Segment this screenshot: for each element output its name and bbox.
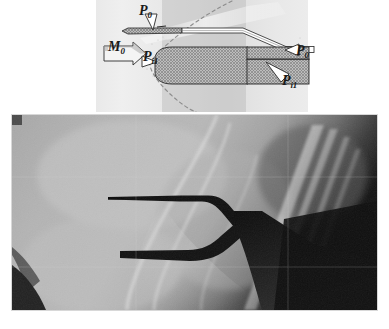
schlieren-photograph	[12, 115, 377, 310]
schematic-vector-layer	[0, 0, 389, 112]
label-p0-top-var: P	[139, 3, 148, 18]
schlieren-vector-layer	[12, 115, 377, 310]
label-m0-var: M	[108, 39, 120, 54]
figure-caption	[6, 316, 306, 327]
label-p0-right: P0	[296, 42, 309, 60]
label-pi1-left: Pi1	[143, 48, 158, 66]
figure-container: P0 M0 Pi1 P0 Pi1	[0, 0, 389, 329]
label-pi1-left-sub: i1	[152, 56, 158, 66]
label-p0-top-sub: 0	[148, 10, 152, 20]
label-pi1-left-var: P	[143, 49, 152, 64]
label-p0-right-sub: 0	[305, 50, 309, 60]
schematic-diagram: P0 M0 Pi1 P0 Pi1	[0, 0, 389, 112]
label-pi1-right: Pi1	[282, 72, 297, 90]
film-grain-overlay	[12, 115, 377, 310]
label-m0: M0	[108, 38, 125, 56]
label-m0-sub: 0	[120, 46, 124, 56]
label-pi1-right-sub: i1	[291, 80, 297, 90]
label-pi1-right-var: P	[282, 73, 291, 88]
label-p0-top: P0	[139, 2, 152, 20]
label-p0-right-var: P	[296, 43, 305, 58]
